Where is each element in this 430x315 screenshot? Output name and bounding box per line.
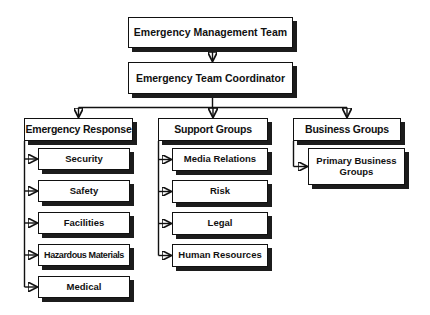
node-label: Emergency Management Team xyxy=(134,26,287,38)
org-chart-canvas: Emergency Management Team Emergency Team… xyxy=(0,0,430,315)
node-label: Support Groups xyxy=(174,123,252,135)
node-label: Business Groups xyxy=(305,123,389,135)
node-facilities: Facilities xyxy=(38,212,130,234)
node-legal: Legal xyxy=(172,212,268,235)
node-emergency-management-team: Emergency Management Team xyxy=(128,17,293,48)
node-support-groups: Support Groups xyxy=(158,118,268,141)
node-label: Legal xyxy=(208,218,233,229)
node-label: Emergency Response xyxy=(25,123,131,135)
node-emergency-team-coordinator: Emergency Team Coordinator xyxy=(128,62,293,94)
node-label: Emergency Team Coordinator xyxy=(136,72,285,84)
node-business-groups: Business Groups xyxy=(293,118,401,141)
node-label: Facilities xyxy=(64,218,105,229)
node-label: Medical xyxy=(67,282,102,293)
node-risk: Risk xyxy=(172,180,268,203)
node-security: Security xyxy=(38,148,130,170)
node-hazardous-materials: Hazardous Materials xyxy=(38,244,130,266)
node-primary-business-groups: Primary Business Groups xyxy=(308,148,405,185)
node-emergency-response: Emergency Response xyxy=(24,118,133,141)
node-label: Safety xyxy=(70,186,99,197)
node-medical: Medical xyxy=(38,276,130,298)
node-safety: Safety xyxy=(38,180,130,202)
node-media-relations: Media Relations xyxy=(172,148,268,171)
node-label: Primary Business Groups xyxy=(313,156,400,178)
node-label: Human Resources xyxy=(178,250,261,261)
node-human-resources: Human Resources xyxy=(172,244,268,267)
node-label: Risk xyxy=(210,186,230,197)
node-label: Hazardous Materials xyxy=(44,250,124,260)
node-label: Security xyxy=(65,154,103,165)
node-label: Media Relations xyxy=(184,154,256,165)
